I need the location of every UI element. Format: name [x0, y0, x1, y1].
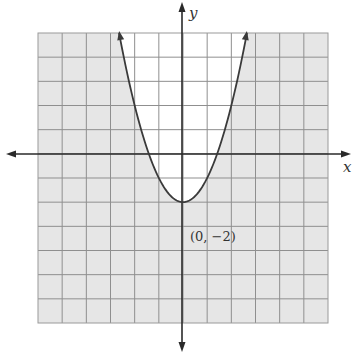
y-axis-label: y: [188, 4, 198, 22]
y-axis-up-arrow-icon: [179, 2, 186, 12]
x-axis-right-arrow-icon: [341, 151, 351, 158]
y-axis-down-arrow-icon: [179, 342, 186, 352]
x-axis-label: x: [343, 158, 352, 176]
vertex-label: (0, −2): [190, 229, 236, 244]
inequality-graph: y x (0, −2): [0, 0, 356, 354]
x-axis-left-arrow-icon: [6, 151, 16, 158]
